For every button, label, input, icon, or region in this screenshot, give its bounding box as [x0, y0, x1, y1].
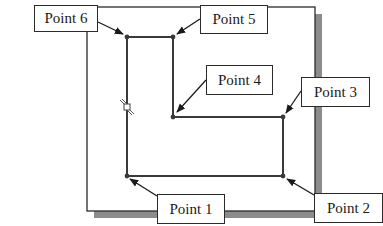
point-label-5: Point 5	[200, 5, 268, 34]
point-label-1: Point 1	[157, 194, 225, 224]
vertex-point-p1	[125, 174, 130, 179]
point-label-3: Point 3	[301, 77, 370, 107]
frame-border	[87, 7, 315, 211]
vertex-point-p2	[281, 174, 286, 179]
point-label-4: Point 4	[206, 65, 273, 95]
point-label-text: Point 6	[45, 10, 88, 27]
point-label-6: Point 6	[34, 5, 98, 32]
vertex-point-p4	[171, 115, 176, 120]
point-label-text: Point 5	[213, 11, 256, 28]
point-label-text: Point 4	[218, 72, 261, 89]
point-label-text: Point 1	[170, 201, 213, 218]
vertex-point-p6	[125, 35, 130, 40]
vertex-point-p5	[171, 35, 176, 40]
point-label-text: Point 2	[327, 200, 370, 217]
point-label-text: Point 3	[314, 84, 357, 101]
point-label-2: Point 2	[314, 193, 383, 223]
vertex-point-p3	[281, 115, 286, 120]
